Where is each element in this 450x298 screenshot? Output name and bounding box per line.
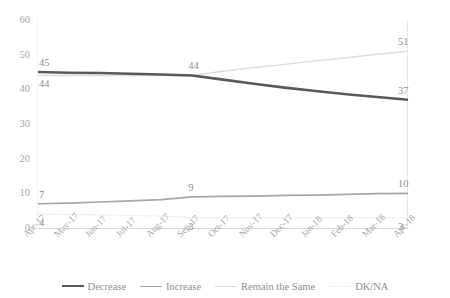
legend-swatch-increase <box>140 286 162 287</box>
series-line-increase <box>38 193 408 203</box>
legend-item-increase[interactable]: Increase <box>140 281 201 292</box>
legend-label-dk-na: DK/NA <box>355 281 388 292</box>
legend-item-remain-the-same[interactable]: Remain the Same <box>215 281 315 292</box>
series-lines <box>0 0 450 298</box>
legend-swatch-dk-na <box>329 286 351 287</box>
data-point-label: 51 <box>398 37 409 47</box>
line-chart: 0102030405060 45443779105143344 Apr-17Ma… <box>0 0 450 298</box>
legend-item-decrease[interactable]: Decrease <box>62 281 126 292</box>
data-point-label: 10 <box>398 179 409 189</box>
data-point-label: 37 <box>398 86 409 96</box>
legend-swatch-remain-the-same <box>215 286 237 287</box>
data-point-label: 44 <box>39 79 50 89</box>
chart-legend: DecreaseIncreaseRemain the SameDK/NA <box>0 278 450 294</box>
legend-label-remain-the-same: Remain the Same <box>241 281 315 292</box>
legend-item-dk-na[interactable]: DK/NA <box>329 281 388 292</box>
legend-label-increase: Increase <box>166 281 201 292</box>
data-point-label: 7 <box>39 190 44 200</box>
data-point-label: 9 <box>188 183 193 193</box>
legend-swatch-decrease <box>62 285 84 287</box>
data-point-label: 45 <box>39 58 50 68</box>
data-point-label: 44 <box>188 61 199 71</box>
legend-label-decrease: Decrease <box>88 281 126 292</box>
